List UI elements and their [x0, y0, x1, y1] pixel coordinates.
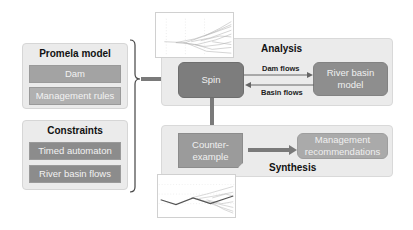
- trajectory-chart: [157, 174, 236, 218]
- state-space-chart: [155, 12, 234, 58]
- counter-example-node: Counter- example: [178, 133, 243, 168]
- synthesis-title: Synthesis: [269, 162, 316, 173]
- river-basin-flows-chip: River basin flows: [29, 165, 121, 183]
- management-rules-chip: Management rules: [29, 87, 121, 105]
- river-basin-label-2: model: [338, 79, 364, 91]
- management-label-1: Management: [315, 134, 370, 146]
- promela-model-title: Promela model: [23, 48, 127, 59]
- timed-automaton-chip: Timed automaton: [29, 142, 121, 160]
- management-label-2: recommendations: [305, 146, 381, 158]
- counter-example-label-1: Counter-: [192, 139, 229, 151]
- constraints-group: Constraints Timed automaton River basin …: [22, 120, 128, 190]
- river-basin-model-node: River basin model: [313, 62, 388, 96]
- basin-flows-label: Basin flows: [261, 88, 303, 97]
- constraints-title: Constraints: [23, 125, 127, 136]
- river-basin-label-1: River basin: [327, 67, 375, 79]
- promela-model-group: Promela model Dam Management rules: [22, 43, 128, 109]
- dam-chip: Dam: [29, 65, 121, 83]
- management-recommendations-node: Management recommendations: [297, 133, 388, 159]
- counter-example-label-2: example: [193, 151, 229, 163]
- basin-flows-arrow-icon: [244, 82, 314, 88]
- dam-flows-arrow-icon: [244, 72, 314, 78]
- brace-icon: [128, 38, 142, 194]
- analysis-title: Analysis: [261, 43, 302, 54]
- spin-label: Spin: [201, 74, 220, 86]
- synthesis-arrow-icon: [248, 145, 298, 155]
- spin-node: Spin: [178, 62, 244, 98]
